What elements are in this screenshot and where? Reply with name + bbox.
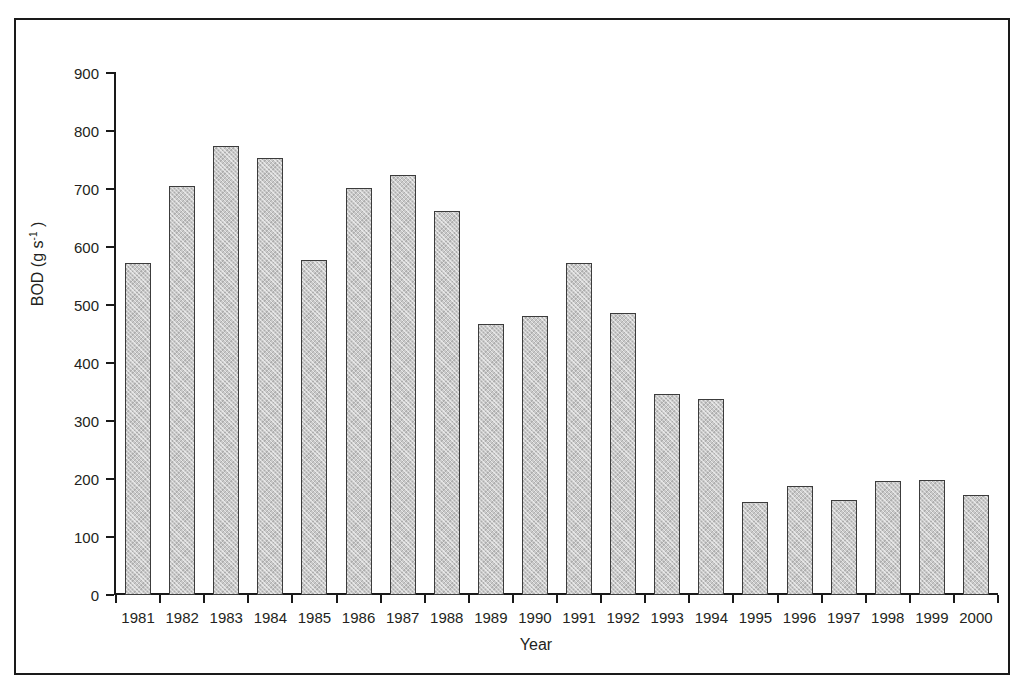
bar <box>125 263 151 595</box>
x-axis-tick <box>115 595 117 603</box>
y-axis-tick-label: 500 <box>74 298 106 313</box>
y-axis-tick-label: 700 <box>74 182 106 197</box>
x-axis-tick <box>336 595 338 603</box>
bar <box>787 486 813 595</box>
bar <box>257 158 283 595</box>
x-axis-tick <box>159 595 161 603</box>
x-axis-tick <box>468 595 470 603</box>
y-axis-tick-label: 800 <box>74 124 106 139</box>
y-axis-tick: 0 <box>106 594 114 596</box>
y-axis-tick-label: 300 <box>74 414 106 429</box>
y-axis-tick: 600 <box>106 246 114 248</box>
bar <box>213 146 239 595</box>
x-axis-tick <box>424 595 426 603</box>
x-axis-tick <box>909 595 911 603</box>
bar <box>390 175 416 596</box>
bar <box>831 500 857 595</box>
y-axis-tick: 300 <box>106 420 114 422</box>
bar <box>169 186 195 595</box>
bar <box>698 399 724 595</box>
x-axis-tick <box>203 595 205 603</box>
y-axis-tick: 200 <box>106 478 114 480</box>
bar <box>566 263 592 595</box>
y-axis-tick-label: 100 <box>74 530 106 545</box>
x-axis-tick <box>865 595 867 603</box>
y-axis-tick-label: 900 <box>74 66 106 81</box>
x-axis-tick <box>247 595 249 603</box>
x-axis-tick <box>997 595 999 603</box>
y-axis-tick-label: 0 <box>91 588 106 603</box>
y-axis-tick-label: 200 <box>74 472 106 487</box>
y-axis-tick: 400 <box>106 362 114 364</box>
x-axis-tick <box>380 595 382 603</box>
bar <box>301 260 327 595</box>
bar <box>610 313 636 595</box>
x-axis-tick <box>291 595 293 603</box>
x-axis-title: Year <box>16 637 1016 653</box>
bar <box>919 480 945 595</box>
y-axis-title-exponent: -1 <box>28 232 39 241</box>
x-axis-tick-label: 2000 <box>946 610 1006 625</box>
bar <box>654 394 680 595</box>
y-axis-line <box>114 72 116 595</box>
y-axis-tick: 900 <box>106 72 114 74</box>
x-axis-tick <box>556 595 558 603</box>
x-axis-tick <box>512 595 514 603</box>
y-axis-tick: 700 <box>106 188 114 190</box>
bar <box>522 316 548 595</box>
figure-caption <box>16 679 1011 693</box>
bar <box>434 211 460 595</box>
x-axis-tick <box>600 595 602 603</box>
y-axis-tick-label: 400 <box>74 356 106 371</box>
bar <box>742 502 768 595</box>
x-axis-tick <box>644 595 646 603</box>
x-axis-tick <box>777 595 779 603</box>
plot-area: 0100200300400500600700800900 19811982198… <box>16 20 1012 677</box>
y-axis-tick: 100 <box>106 536 114 538</box>
y-axis-tick: 800 <box>106 130 114 132</box>
x-axis-tick <box>732 595 734 603</box>
x-axis-tick <box>953 595 955 603</box>
bar <box>478 324 504 595</box>
y-axis-tick: 500 <box>106 304 114 306</box>
bar <box>346 188 372 595</box>
x-axis-tick <box>688 595 690 603</box>
x-axis-tick <box>821 595 823 603</box>
bar <box>875 481 901 595</box>
figure-frame: 0100200300400500600700800900 19811982198… <box>14 18 1010 675</box>
bar <box>963 495 989 595</box>
y-axis-tick-label: 600 <box>74 240 106 255</box>
y-axis-title: BOD (g s-1 ) <box>30 184 46 344</box>
